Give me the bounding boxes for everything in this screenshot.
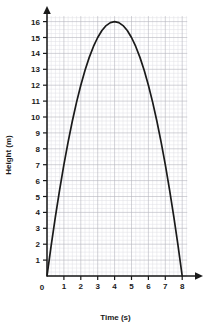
x-tick-label: 7 [163,282,168,291]
x-tick-label: 5 [129,282,134,291]
y-axis-title: Height (m) [4,135,13,175]
origin-label: 0 [40,283,45,292]
y-tick-label: 1 [36,256,41,265]
height-vs-time-graph: 12345678 12345678910111213141516 Time (s… [0,0,209,327]
y-tick-label: 4 [36,208,41,217]
x-axis-title: Time (s) [100,313,131,322]
y-tick-label: 6 [36,177,41,186]
y-tick-label: 8 [36,145,41,154]
x-tick-label: 3 [95,282,100,291]
x-tick-label: 8 [180,282,185,291]
x-tick-label: 1 [62,282,67,291]
x-tick-label: 4 [112,282,117,291]
chart-container: 12345678 12345678910111213141516 Time (s… [0,0,209,327]
y-tick-label: 2 [36,240,41,249]
y-tick-label: 11 [32,97,41,106]
y-tick-label: 5 [36,193,41,202]
y-tick-label: 15 [31,34,40,43]
y-tick-label: 7 [36,161,41,170]
y-tick-label: 14 [31,49,40,58]
y-tick-label: 16 [31,18,40,27]
y-tick-label: 3 [36,224,41,233]
y-tick-label: 9 [36,129,41,138]
y-tick-label: 10 [31,113,40,122]
y-tick-label: 12 [31,81,40,90]
y-tick-label: 13 [31,65,40,74]
x-tick-label: 2 [79,282,84,291]
x-tick-label: 6 [146,282,151,291]
